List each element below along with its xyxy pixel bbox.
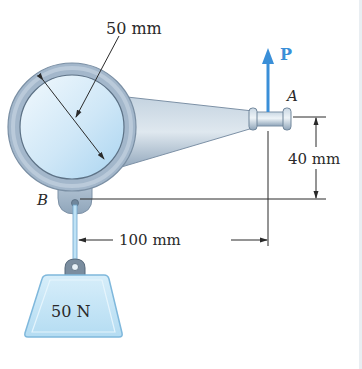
- lever-arm: [118, 96, 253, 168]
- pin-a-right-collar: [283, 108, 291, 130]
- hanging-rod: [73, 205, 77, 261]
- weight-shackle-hole: [72, 264, 79, 271]
- force-label: P: [280, 45, 292, 64]
- diameter-label: 50 mm: [106, 19, 162, 38]
- statics-diagram: P A 40 mm 100 mm B 50 N 50 mm: [0, 0, 362, 369]
- horizontal-dimension-label: 100 mm: [119, 231, 181, 249]
- vertical-dimension-label: 40 mm: [288, 150, 340, 168]
- ring-inner: [20, 75, 124, 179]
- weight-label: 50 N: [51, 302, 90, 321]
- point-b-label: B: [36, 191, 48, 209]
- pin-a-shaft: [255, 112, 285, 126]
- pin-a-left-collar: [249, 108, 257, 130]
- force-p-arrowhead-icon: [262, 48, 274, 64]
- point-a-label: A: [285, 87, 298, 105]
